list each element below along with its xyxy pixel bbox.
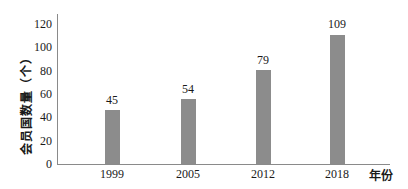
y-tick-20: 20 — [22, 135, 52, 147]
bar-label-2012: 79 — [243, 54, 283, 66]
y-tick-100: 100 — [22, 41, 52, 53]
bar-1999 — [105, 110, 120, 164]
bar-2012 — [256, 70, 271, 164]
y-axis — [57, 14, 58, 164]
x-axis — [57, 164, 390, 165]
y-tick-60: 60 — [22, 88, 52, 100]
bar-label-2005: 54 — [168, 83, 208, 95]
bar-label-1999: 45 — [92, 94, 132, 106]
bar-2005 — [181, 99, 196, 164]
x-axis-label: 年份 — [369, 166, 393, 183]
bar-2018 — [330, 35, 345, 164]
x-tick-2005: 2005 — [168, 168, 208, 180]
x-tick-2018: 2018 — [317, 168, 357, 180]
bar-chart: 会员国数量（个） 0 20 40 60 80 100 120 45 1999 5… — [0, 0, 408, 189]
y-tick-80: 80 — [22, 65, 52, 77]
y-tick-0: 0 — [22, 158, 52, 170]
y-tick-40: 40 — [22, 111, 52, 123]
bar-label-2018: 109 — [317, 18, 357, 30]
y-tick-120: 120 — [22, 18, 52, 30]
x-tick-2012: 2012 — [243, 168, 283, 180]
x-tick-1999: 1999 — [92, 168, 132, 180]
